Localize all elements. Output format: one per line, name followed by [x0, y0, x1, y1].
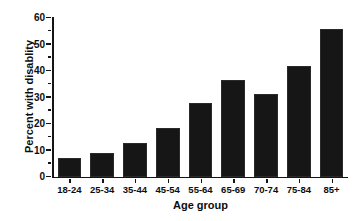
y-tick-major	[46, 149, 51, 151]
y-tick-minor	[48, 83, 51, 84]
x-tick-label: 25-34	[90, 185, 114, 195]
y-tick-minor	[48, 56, 51, 57]
y-tick-label: 0	[39, 172, 45, 182]
x-tick	[233, 179, 235, 183]
x-tick	[201, 179, 203, 183]
bar	[90, 153, 114, 177]
bar	[58, 158, 82, 177]
x-tick	[299, 179, 301, 183]
x-tick	[168, 179, 170, 183]
bar	[123, 143, 147, 177]
plot-area: 0102030405060 18-2425-3435-4445-5455-646…	[53, 18, 348, 177]
x-tick	[266, 179, 268, 183]
y-tick-major	[46, 70, 51, 72]
y-tick-major	[46, 123, 51, 125]
y-tick-label: 20	[34, 119, 45, 129]
y-tick-minor	[48, 30, 51, 31]
y-tick-minor	[48, 162, 51, 163]
bar	[156, 128, 180, 177]
x-tick-label: 45-54	[156, 185, 180, 195]
x-tick-label: 18-24	[57, 185, 81, 195]
bar	[189, 103, 213, 177]
x-tick	[102, 179, 104, 183]
x-tick-label: 65-69	[221, 185, 245, 195]
x-tick	[135, 179, 137, 183]
y-tick-label: 10	[34, 146, 45, 156]
y-tick-major	[46, 17, 51, 19]
y-tick-label: 40	[34, 66, 45, 76]
bar	[287, 66, 311, 177]
x-tick-label: 70-74	[254, 185, 278, 195]
y-tick-label: 50	[34, 40, 45, 50]
y-tick-major	[46, 43, 51, 45]
bar	[221, 80, 245, 177]
x-tick-label: 35-44	[123, 185, 147, 195]
y-tick-minor	[48, 109, 51, 110]
x-axis-title: Age group	[53, 200, 348, 211]
x-tick	[69, 179, 71, 183]
bar	[254, 94, 278, 177]
x-tick-label: 55-64	[188, 185, 212, 195]
y-tick-major	[46, 96, 51, 98]
y-tick-major	[46, 176, 51, 178]
bar	[320, 29, 344, 177]
y-tick-minor	[48, 136, 51, 137]
bar-chart-figure: Percent with disablity 0102030405060 18-…	[0, 0, 355, 221]
x-tick-label: 75-84	[287, 185, 311, 195]
y-tick-label: 60	[34, 13, 45, 23]
x-tick	[332, 179, 334, 183]
x-tick-label: 85+	[324, 185, 340, 195]
y-tick-label: 30	[34, 93, 45, 103]
